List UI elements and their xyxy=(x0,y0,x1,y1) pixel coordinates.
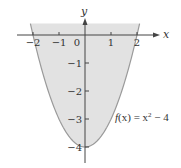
y-tick-label: −4 xyxy=(67,142,82,153)
function-plot: x y −2−1012 −1−2−3−4 f(x) = x2 − 4 xyxy=(0,0,181,168)
x-axis-arrow-icon xyxy=(153,33,160,38)
x-tick-label: −1 xyxy=(52,37,67,48)
y-axis-label: y xyxy=(80,5,88,18)
x-tick-label: 1 xyxy=(108,37,114,48)
x-tick-label: 0 xyxy=(74,37,80,48)
y-tick-label: −3 xyxy=(67,114,82,125)
x-axis-label: x xyxy=(163,28,170,41)
function-label: f(x) = x2 − 4 xyxy=(115,111,169,124)
y-tick-label: −1 xyxy=(67,58,82,69)
x-tick-label: −2 xyxy=(26,37,41,48)
x-tick-label: 2 xyxy=(134,37,140,48)
y-tick-label: −2 xyxy=(67,86,82,97)
y-axis-arrow-icon xyxy=(83,18,88,25)
